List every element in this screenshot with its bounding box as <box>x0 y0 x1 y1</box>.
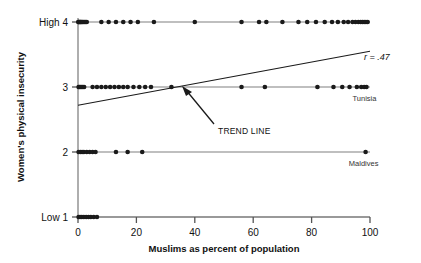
data-point <box>331 85 336 90</box>
y-tick-label-4: High 4 <box>39 17 68 28</box>
data-point <box>296 20 301 25</box>
data-point <box>365 20 370 25</box>
data-point <box>95 215 100 220</box>
data-point <box>330 20 335 25</box>
x-tick-label-20: 20 <box>131 227 143 238</box>
data-point <box>82 85 87 90</box>
data-point <box>125 150 130 155</box>
x-tick-label-40: 40 <box>189 227 201 238</box>
data-point <box>99 85 104 90</box>
data-point <box>121 85 126 90</box>
data-point <box>336 20 341 25</box>
data-point <box>125 85 130 90</box>
data-point <box>114 150 119 155</box>
data-point <box>140 150 145 155</box>
trend-line-label: TREND LINE <box>218 126 271 136</box>
data-point <box>128 20 133 25</box>
data-point <box>346 20 351 25</box>
data-point <box>363 150 368 155</box>
data-point <box>93 150 98 155</box>
data-point <box>315 85 320 90</box>
x-tick-label-100: 100 <box>362 227 379 238</box>
data-point <box>322 20 327 25</box>
y-axis-title: Women's physical insecurity <box>15 51 26 182</box>
data-point <box>136 20 141 25</box>
data-point <box>257 20 262 25</box>
data-point <box>108 85 113 90</box>
data-point <box>95 85 100 90</box>
data-point <box>263 85 268 90</box>
correlation-annotation: r = .47 <box>364 52 391 62</box>
data-point <box>305 20 310 25</box>
x-tick-label-80: 80 <box>306 227 318 238</box>
data-point <box>193 20 198 25</box>
y-tick-label-1: Low 1 <box>41 212 68 223</box>
data-point <box>117 85 122 90</box>
x-tick-label-60: 60 <box>248 227 260 238</box>
data-point <box>84 20 89 25</box>
y-tick-label-3: 3 <box>62 82 68 93</box>
data-point <box>152 20 157 25</box>
x-tick-label-0: 0 <box>75 227 81 238</box>
scatter-chart-figure: Low 123High 4 020406080100 Muslims as pe… <box>0 0 421 263</box>
y-tick-label-2: 2 <box>62 147 68 158</box>
data-point <box>121 20 126 25</box>
data-point <box>106 20 111 25</box>
data-point <box>264 20 269 25</box>
data-point <box>341 20 346 25</box>
data-point <box>114 20 119 25</box>
point-label-tunisia: Tunisia <box>353 94 378 103</box>
data-point <box>364 85 369 90</box>
data-point <box>355 85 360 90</box>
data-point <box>137 85 142 90</box>
data-point <box>143 85 148 90</box>
data-point <box>239 85 244 90</box>
data-point <box>347 85 352 90</box>
chart-background <box>0 0 421 263</box>
data-point <box>314 20 319 25</box>
data-point <box>99 20 104 25</box>
point-label-maldives: Maldives <box>349 159 379 168</box>
x-axis-title: Muslims as percent of population <box>149 243 300 254</box>
data-point <box>90 85 95 90</box>
data-point <box>239 20 244 25</box>
data-point <box>280 20 285 25</box>
data-point <box>131 85 136 90</box>
data-point <box>149 85 154 90</box>
data-point <box>112 85 117 90</box>
chart-canvas: Low 123High 4 020406080100 Muslims as pe… <box>0 0 421 263</box>
data-point <box>103 85 108 90</box>
data-point <box>340 85 345 90</box>
